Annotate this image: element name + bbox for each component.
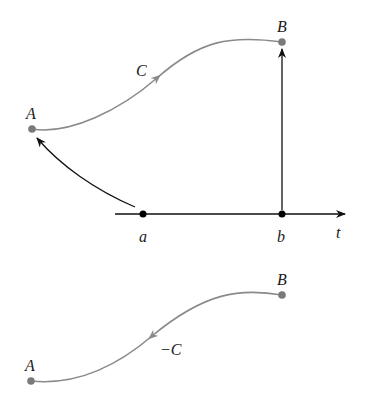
curve-diagram: A B C a b t B A −C	[0, 0, 373, 407]
curve-c	[32, 39, 282, 130]
point-a-top	[28, 125, 36, 133]
label-axis-a: a	[139, 228, 147, 245]
label-a-bottom: A	[24, 357, 35, 374]
axis-point-b	[279, 211, 286, 218]
point-b-bottom	[278, 291, 286, 299]
label-c: C	[136, 62, 147, 79]
point-a-bottom	[27, 377, 35, 385]
map-arrow-a	[37, 138, 135, 207]
label-b-bottom: B	[277, 271, 287, 288]
label-minus-c: −C	[160, 341, 182, 358]
label-b-top: B	[277, 18, 287, 35]
curve-minus-c	[31, 292, 282, 381]
axis-point-a	[140, 211, 147, 218]
point-b-top	[278, 38, 286, 46]
label-t: t	[336, 224, 341, 241]
label-a-top: A	[25, 105, 36, 122]
label-axis-b: b	[277, 228, 285, 245]
